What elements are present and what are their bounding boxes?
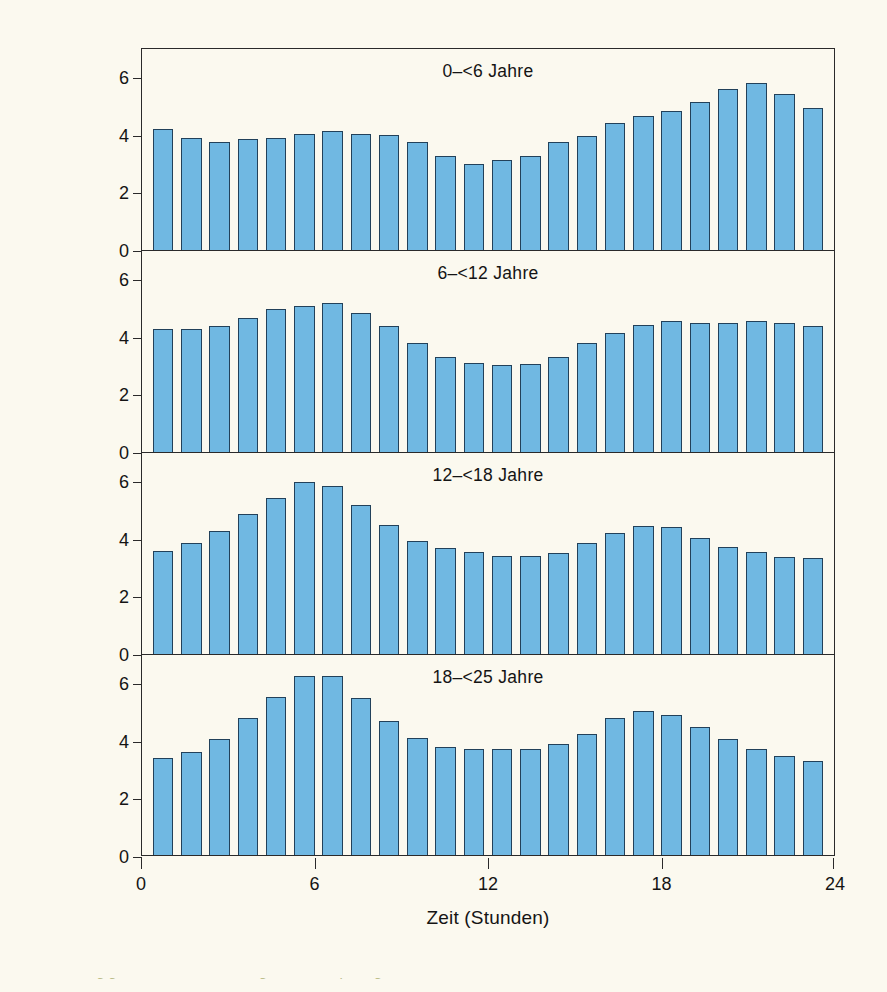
bar[interactable] [577, 734, 597, 855]
bar[interactable] [690, 102, 710, 250]
bar[interactable] [209, 531, 229, 654]
bar[interactable] [153, 758, 173, 855]
bar[interactable] [690, 323, 710, 452]
bar[interactable] [492, 365, 512, 452]
bar[interactable] [633, 711, 653, 855]
bar[interactable] [209, 326, 229, 452]
bar[interactable] [435, 156, 455, 250]
bar[interactable] [548, 142, 568, 250]
bar[interactable] [379, 525, 399, 654]
bar[interactable] [435, 747, 455, 855]
bar[interactable] [746, 321, 766, 452]
bar[interactable] [351, 134, 371, 250]
bar[interactable] [520, 556, 540, 654]
bar[interactable] [322, 303, 342, 452]
bar[interactable] [379, 721, 399, 855]
bar[interactable] [605, 533, 625, 654]
bar[interactable] [238, 718, 258, 855]
bar[interactable] [153, 129, 173, 250]
bar[interactable] [435, 357, 455, 452]
bar[interactable] [266, 697, 286, 855]
bar[interactable] [520, 364, 540, 452]
bar[interactable] [520, 749, 540, 855]
bar[interactable] [577, 543, 597, 654]
bar[interactable] [633, 526, 653, 654]
bar[interactable] [746, 83, 766, 250]
bar[interactable] [520, 156, 540, 250]
bar[interactable] [294, 482, 314, 654]
bar[interactable] [464, 164, 484, 250]
bar[interactable] [238, 318, 258, 452]
bar[interactable] [774, 94, 794, 250]
bar[interactable] [351, 313, 371, 452]
bar-slot [290, 453, 318, 654]
bar[interactable] [661, 321, 681, 452]
bar[interactable] [209, 739, 229, 855]
bar[interactable] [577, 136, 597, 250]
bar[interactable] [718, 323, 738, 452]
bar[interactable] [746, 749, 766, 855]
bar[interactable] [718, 89, 738, 250]
bar[interactable] [803, 761, 823, 855]
bar[interactable] [294, 134, 314, 250]
bar[interactable] [407, 738, 427, 855]
bar[interactable] [577, 343, 597, 452]
bar[interactable] [407, 541, 427, 654]
bar[interactable] [351, 698, 371, 855]
bar[interactable] [803, 558, 823, 654]
bar[interactable] [774, 323, 794, 452]
bar[interactable] [774, 756, 794, 855]
bar[interactable] [605, 718, 625, 855]
bar[interactable] [266, 138, 286, 250]
bar[interactable] [322, 486, 342, 654]
bar[interactable] [605, 123, 625, 250]
bar[interactable] [661, 111, 681, 250]
bar-slot [432, 453, 460, 654]
bar[interactable] [633, 325, 653, 452]
bar[interactable] [435, 548, 455, 654]
bar[interactable] [181, 752, 201, 855]
bar[interactable] [379, 135, 399, 250]
bar[interactable] [605, 333, 625, 452]
bar[interactable] [181, 138, 201, 250]
bar[interactable] [718, 547, 738, 654]
bar[interactable] [153, 329, 173, 452]
bar[interactable] [266, 498, 286, 654]
bar[interactable] [322, 131, 342, 250]
bar[interactable] [661, 527, 681, 654]
bar[interactable] [492, 556, 512, 654]
bar[interactable] [690, 727, 710, 855]
y-axis-tick [133, 799, 142, 800]
bar[interactable] [322, 676, 342, 855]
bar[interactable] [690, 538, 710, 654]
bar[interactable] [238, 139, 258, 250]
bar[interactable] [548, 744, 568, 855]
bar[interactable] [407, 343, 427, 452]
bar[interactable] [294, 306, 314, 452]
bar[interactable] [661, 715, 681, 855]
bar[interactable] [238, 514, 258, 654]
bar[interactable] [803, 108, 823, 250]
bar[interactable] [464, 363, 484, 452]
bar-slot [432, 49, 460, 250]
bar[interactable] [464, 552, 484, 654]
bar[interactable] [492, 160, 512, 250]
bar[interactable] [294, 676, 314, 855]
bar[interactable] [266, 309, 286, 452]
bar[interactable] [548, 553, 568, 654]
bar[interactable] [407, 142, 427, 250]
bar[interactable] [746, 552, 766, 654]
bar[interactable] [209, 142, 229, 250]
bar[interactable] [181, 543, 201, 654]
bar[interactable] [633, 116, 653, 250]
bar[interactable] [379, 326, 399, 452]
bar[interactable] [803, 326, 823, 452]
bar[interactable] [548, 357, 568, 452]
bar[interactable] [492, 749, 512, 855]
bar[interactable] [464, 749, 484, 855]
bar[interactable] [774, 557, 794, 654]
bar[interactable] [351, 505, 371, 654]
bar[interactable] [181, 329, 201, 452]
bar[interactable] [153, 551, 173, 654]
bar[interactable] [718, 739, 738, 855]
